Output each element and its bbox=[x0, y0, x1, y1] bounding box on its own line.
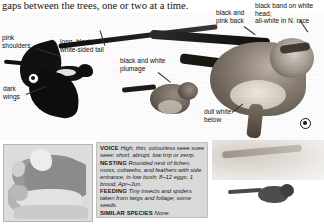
callout-dark-wings: dark wings bbox=[3, 85, 20, 100]
callout-black-and-white-plumage: black and white plumage bbox=[120, 57, 165, 72]
bird-silhouette-photo bbox=[228, 178, 298, 212]
habitat-badge-icon-2 bbox=[300, 118, 311, 129]
running-text: gaps between the trees, one or two at a … bbox=[2, 0, 292, 12]
info-key-feeding: FEEDING bbox=[100, 188, 127, 194]
bottom-strip: VOICE High, thin, colourless seee soee s… bbox=[0, 140, 324, 224]
silhouette-tail bbox=[228, 188, 262, 194]
callout-pink-shoulders: pink shoulders bbox=[2, 34, 31, 49]
habitat-photo bbox=[212, 140, 324, 180]
map-iberia bbox=[10, 185, 28, 201]
info-key-voice: VOICE bbox=[100, 145, 119, 151]
info-entry-nesting: NESTING Rounded nest of lichen, moss, co… bbox=[100, 160, 204, 188]
range-map bbox=[3, 144, 93, 222]
info-key-nesting: NESTING bbox=[100, 160, 127, 166]
info-value-similar-species: None. bbox=[155, 210, 171, 216]
field-guide-page: gaps between the trees, one or two at a … bbox=[0, 0, 324, 224]
habitat-badge-icon bbox=[28, 73, 39, 84]
flying-bird-head bbox=[78, 64, 93, 77]
habitat-branch bbox=[222, 145, 302, 159]
callout-black-and-pink-back: black and pink back bbox=[216, 9, 244, 24]
perched-bird-head bbox=[178, 82, 198, 100]
info-entry-similar-species: SIMILAR SPECIES None. bbox=[100, 210, 204, 217]
info-panel: VOICE High, thin, colourless seee soee s… bbox=[96, 142, 208, 218]
map-scandinavia bbox=[30, 149, 52, 171]
info-entry-voice: VOICE High, thin, colourless seee soee s… bbox=[100, 145, 204, 159]
callout-black-band-on-white-head: black band on white head; all-white in N… bbox=[255, 2, 324, 25]
info-entry-feeding: FEEDING Tiny insects and spiders taken f… bbox=[100, 188, 204, 209]
perched-bird-breast bbox=[158, 100, 182, 114]
silhouette-head bbox=[280, 184, 294, 197]
map-north-africa bbox=[14, 205, 88, 219]
callout-dull-white-below: dull white below bbox=[204, 108, 232, 123]
info-key-similar-species: SIMILAR SPECIES bbox=[100, 210, 153, 216]
perch-branch bbox=[246, 103, 263, 138]
callout-long-black-white-sided-tail: long, black, white-sided tail bbox=[60, 38, 104, 53]
